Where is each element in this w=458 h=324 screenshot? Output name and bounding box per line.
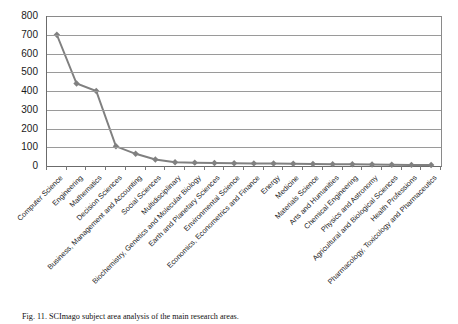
y-axis-tick-label: 300 [21,105,38,115]
x-axis-tick [125,166,126,170]
gridline [47,147,441,148]
gridline [47,91,441,92]
y-axis-tick-label: 800 [21,11,38,21]
y-axis-tick-label: 100 [21,142,38,152]
x-axis-tick [302,166,303,170]
x-axis-tick [85,166,86,170]
x-axis-tick [223,166,224,170]
x-axis-tick [420,166,421,170]
x-axis-tick [322,166,323,170]
y-axis: 0100200300400500600700800 [0,0,44,180]
x-axis-tick [263,166,264,170]
x-axis-tick [243,166,244,170]
gridline [47,129,441,130]
x-axis-tick [164,166,165,170]
x-axis-tick [440,166,441,170]
x-axis-ticks [46,166,440,171]
gridline [47,16,441,17]
x-axis-tick [361,166,362,170]
gridline [47,35,441,36]
data-point-marker [152,156,158,162]
gridline [47,72,441,73]
x-axis-tick [401,166,402,170]
data-point-marker [192,159,198,165]
figure: 0100200300400500600700800 Computer Scien… [0,0,458,324]
gridline [47,54,441,55]
y-axis-tick-label: 200 [21,124,38,134]
data-point-marker [73,80,79,86]
x-axis-tick [66,166,67,170]
x-axis-tick [381,166,382,170]
chart-plot: 0100200300400500600700800 [0,0,458,180]
plot-area [46,16,442,167]
y-axis-tick-label: 0 [32,161,38,171]
figure-caption: Fig. 11. SCImago subject area analysis o… [22,312,442,324]
x-axis-tick [145,166,146,170]
x-axis-tick [204,166,205,170]
data-point-marker [132,151,138,157]
x-axis-category-labels: Computer ScienceEngineeringMathematicsDe… [0,172,458,302]
data-point-marker [172,159,178,165]
y-axis-tick-label: 600 [21,49,38,59]
x-axis-tick [282,166,283,170]
y-axis-tick-label: 700 [21,30,38,40]
gridline [47,110,441,111]
x-axis-tick [105,166,106,170]
x-axis-tick [184,166,185,170]
x-axis-tick [46,166,47,170]
y-axis-tick-label: 500 [21,67,38,77]
y-axis-tick-label: 400 [21,86,38,96]
x-axis-tick [342,166,343,170]
